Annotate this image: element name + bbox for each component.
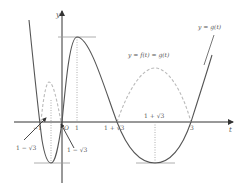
tick-origin: O xyxy=(64,124,69,131)
tick-three: 3 xyxy=(190,124,194,131)
tick-one: 1 xyxy=(75,124,79,131)
x-axis-label: t xyxy=(229,126,232,134)
h-curve-label: y = f(t) = g(t) xyxy=(127,51,170,59)
g-label-leader xyxy=(204,35,214,65)
tick-one-plus-sqrt3-axis: 1 + √3 xyxy=(104,124,124,131)
function-graph: y t y = g(t) y = f(t) = g(t) −1 O 1 1 + … xyxy=(0,0,245,185)
tick-minus-one: −1 xyxy=(33,124,42,131)
graph-canvas: y t y = g(t) y = f(t) = g(t) −1 O 1 1 + … xyxy=(0,0,245,185)
left-annotation-label: 1 − √3 xyxy=(16,144,36,151)
y-axis-label: y xyxy=(55,11,61,19)
g-curve-label: y = g(t) xyxy=(197,23,222,31)
right-annotation-label: 1 − √3 xyxy=(67,146,87,153)
solid-curve-g xyxy=(29,20,212,163)
tick-one-plus-sqrt3-top: 1 + √3 xyxy=(144,112,164,119)
